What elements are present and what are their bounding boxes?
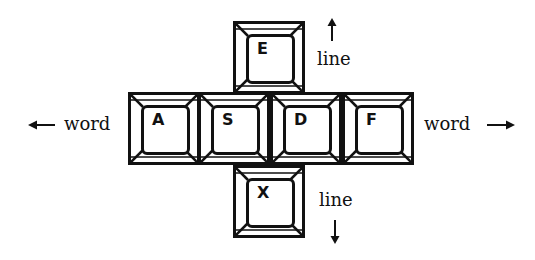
- left-word-label: word: [64, 115, 110, 133]
- keycap-top: F: [355, 105, 404, 155]
- key-x: X: [233, 165, 305, 238]
- key-label: S: [222, 112, 234, 128]
- right-word-label: word: [424, 115, 470, 133]
- keycap-top: S: [211, 105, 260, 155]
- key-d: D: [270, 92, 342, 165]
- key-label: F: [366, 112, 377, 128]
- key-label: E: [257, 41, 268, 57]
- keycap-top: E: [246, 34, 295, 84]
- keycap-top: A: [141, 105, 190, 155]
- key-label: D: [294, 112, 307, 128]
- left-arrow-icon: [28, 119, 56, 131]
- key-e: E: [233, 21, 305, 94]
- key-s: S: [198, 92, 270, 165]
- up-arrow-icon: [326, 18, 338, 42]
- down-line-label: line: [319, 191, 353, 209]
- keycap-top: X: [246, 178, 295, 228]
- keycap-top: D: [283, 105, 332, 155]
- right-arrow-icon: [487, 119, 515, 131]
- key-a: A: [128, 92, 200, 165]
- key-label: A: [152, 112, 164, 128]
- key-f: F: [342, 92, 414, 165]
- key-label: X: [257, 185, 269, 201]
- down-arrow-icon: [329, 220, 341, 244]
- up-line-label: line: [317, 50, 351, 68]
